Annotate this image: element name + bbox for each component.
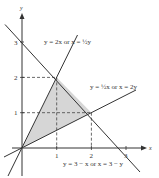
label-line-3-minus-x: y = 3 − x or x = 3 − y <box>63 160 124 168</box>
x-axis-arrow-icon <box>141 146 147 151</box>
y-tick-1: 1 <box>14 109 18 117</box>
x-axis-label: x <box>148 145 152 151</box>
y-axis-arrow-icon <box>20 13 25 19</box>
x-tick-1: 1 <box>55 152 59 160</box>
region-diagram: x y 1 2 3 1 2 3 y = 2x or x = ½y y = ½x … <box>0 0 159 178</box>
y-tick-3: 3 <box>14 39 18 47</box>
y-axis-label: y <box>19 5 23 11</box>
label-line-2x: y = 2x or x = ½y <box>44 38 91 46</box>
y-tick-2: 2 <box>14 74 18 82</box>
label-line-half-x: y = ½x or x = 2y <box>90 83 137 91</box>
x-tick-2: 2 <box>90 152 94 160</box>
